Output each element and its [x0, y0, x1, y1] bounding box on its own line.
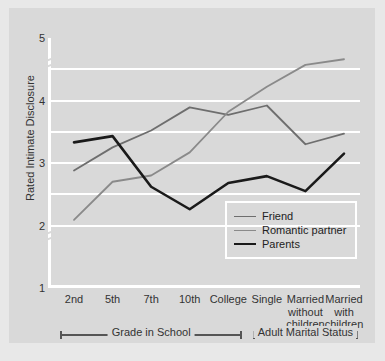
y-tick-label: 4 [23, 95, 45, 107]
x-tick-label: Married without children [286, 293, 325, 331]
x-tick-label: 10th [179, 293, 200, 306]
x-axis-group-brackets: Grade in SchoolAdult Marital Status [48, 330, 360, 346]
group-bracket-label: Adult Marital Status [254, 326, 357, 338]
x-tick-label: Married with children [325, 293, 364, 331]
bracket-cap-right [240, 331, 242, 339]
y-axis-tick-labels: 12345 [9, 38, 45, 288]
chart-figure: Rated Intimate Disclosure 12345 2nd5th7t… [9, 8, 375, 343]
legend-item: Friend [234, 209, 348, 223]
x-tick-label: 5th [105, 293, 120, 306]
y-tick-label: 1 [23, 282, 45, 294]
legend-swatch-line-icon [234, 243, 256, 245]
chart-legend: FriendRomantic partnerParents [225, 201, 357, 259]
x-tick-label: Single [252, 293, 283, 306]
bracket-cap-left [60, 331, 62, 339]
y-tick-label: 5 [23, 32, 45, 44]
group-bracket: Adult Marital Status [253, 330, 358, 344]
legend-swatch-line-icon [234, 230, 256, 231]
x-tick-label: College [210, 293, 247, 306]
group-bracket: Grade in School [60, 330, 242, 344]
legend-swatch-line-icon [234, 216, 256, 217]
group-bracket-label: Grade in School [108, 326, 195, 338]
legend-item: Romantic partner [234, 223, 348, 237]
x-tick-label: 7th [143, 293, 158, 306]
legend-item: Parents [234, 237, 348, 251]
legend-label: Parents [262, 238, 300, 250]
legend-label: Romantic partner [262, 224, 346, 236]
x-tick-label: 2nd [65, 293, 83, 306]
y-tick-label: 3 [23, 157, 45, 169]
legend-label: Friend [262, 210, 293, 222]
